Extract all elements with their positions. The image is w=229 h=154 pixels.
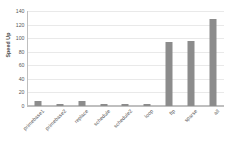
x-tick-label: ftp — [168, 108, 176, 116]
bar[interactable] — [210, 19, 217, 106]
y-tick-label: 20 — [19, 89, 25, 95]
bar-slot — [158, 11, 180, 106]
x-tick-label-text: primebase2 — [44, 108, 67, 131]
bar-slot — [27, 11, 49, 106]
x-tick-label: primebase2 — [44, 108, 67, 131]
bar-slot — [180, 11, 202, 106]
bar-slot — [93, 11, 115, 106]
y-tick-label: 0 — [22, 103, 25, 109]
x-tick-label-text: all — [212, 108, 220, 116]
bars-layer — [27, 11, 224, 106]
bar-slot — [49, 11, 71, 106]
x-tick-label-text: loop — [143, 108, 154, 119]
x-tick-label-text: ftp — [168, 108, 176, 116]
x-tick-label-text: sparse — [183, 108, 198, 123]
y-tick-label: 40 — [19, 76, 25, 82]
y-tick-label: 140 — [16, 8, 25, 14]
x-tick-label-text: schedule2 — [112, 108, 133, 129]
x-tick-label: loop — [143, 108, 154, 119]
bar[interactable] — [188, 41, 195, 106]
x-tick-label-text: schedule — [92, 108, 111, 127]
y-tick-label: 120 — [16, 22, 25, 28]
x-tick-label: schedule2 — [112, 108, 133, 129]
bar-slot — [202, 11, 224, 106]
x-tick-label: schedule — [92, 108, 111, 127]
x-tick-label-text: primebase1 — [22, 108, 45, 131]
y-tick-label: 80 — [19, 49, 25, 55]
x-tick-label: primebase1 — [22, 108, 45, 131]
bar-slot — [115, 11, 137, 106]
y-tick-label: 100 — [16, 35, 25, 41]
x-tick-label: sparse — [183, 108, 198, 123]
x-tick-label: all — [212, 108, 220, 116]
bar-slot — [71, 11, 93, 106]
y-axis-title: Speed Up — [5, 19, 11, 71]
bar-chart: Speed Up 020406080100120140 primebase1pr… — [0, 0, 229, 154]
bar[interactable] — [166, 42, 173, 106]
y-tick-label: 60 — [19, 62, 25, 68]
x-axis-labels: primebase1primebase2replaceschedulesched… — [27, 106, 224, 154]
x-tick-label-text: replace — [73, 108, 89, 124]
bar-slot — [136, 11, 158, 106]
x-tick-label: replace — [73, 108, 89, 124]
